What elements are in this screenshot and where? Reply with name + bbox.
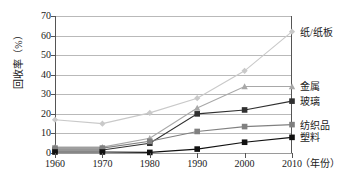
legend-label-2: 玻璃	[300, 96, 320, 107]
series-line-0	[55, 32, 292, 124]
data-point-0-3	[194, 95, 200, 101]
legend-label-3: 纺织品	[300, 120, 330, 131]
x-tick-label-2000: 2000	[222, 158, 268, 169]
data-point-2-3	[194, 111, 200, 117]
data-point-4-3	[194, 146, 200, 152]
legend-label-0: 纸/纸板	[300, 27, 333, 38]
data-point-0-0	[52, 117, 58, 123]
data-point-4-4	[242, 139, 248, 145]
legend-label-1: 金属	[300, 81, 320, 92]
x-axis-unit-label: （年份）	[300, 158, 340, 169]
legend-label-4: 塑料	[300, 132, 320, 143]
data-point-3-5	[289, 122, 295, 128]
data-point-2-4	[242, 107, 248, 113]
data-point-0-2	[147, 110, 153, 116]
data-point-4-5	[289, 135, 295, 141]
data-point-1-3	[194, 105, 200, 111]
x-tick-label-1990: 1990	[174, 158, 220, 169]
data-point-3-2	[147, 138, 153, 144]
series-line-1	[55, 86, 292, 147]
x-tick-label-1980: 1980	[127, 158, 173, 169]
x-tick-label-1960: 1960	[32, 158, 78, 169]
data-point-3-4	[242, 124, 248, 130]
recycling-rate-line-chart: 回收率（%） 010203040506070 19601970198019902…	[0, 0, 354, 181]
x-tick-label-1970: 1970	[79, 158, 125, 169]
data-point-0-1	[99, 121, 105, 127]
data-point-2-5	[289, 98, 295, 104]
data-point-3-3	[194, 129, 200, 135]
